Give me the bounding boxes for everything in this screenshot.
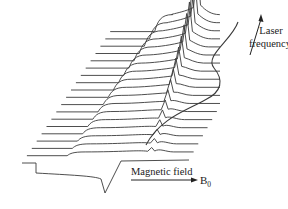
y-axis-label-line2: frequency	[249, 38, 288, 49]
magnetic-field-axis: Magnetic field B0	[131, 166, 211, 189]
spectrum-trace	[105, 0, 220, 39]
spectrum-trace	[110, 0, 220, 32]
spectrum-trace	[32, 139, 198, 149]
laser-frequency-axis: Laser frequency	[249, 14, 288, 55]
spectrum-trace	[47, 110, 213, 127]
arrow-right-icon	[191, 178, 198, 183]
waterfall-figure: Laser frequency Magnetic field B0	[0, 0, 288, 209]
spectral-traces	[22, 0, 220, 193]
spectrum-trace	[76, 47, 220, 83]
spectrum-trace	[37, 129, 203, 141]
spectrum-trace	[56, 90, 220, 112]
envelope-curve	[146, 22, 238, 145]
x-axis-symbol: B0	[200, 174, 211, 189]
y-axis-label-line1: Laser	[259, 25, 283, 36]
arrow-up-icon	[259, 14, 264, 22]
spectrum-trace	[81, 36, 220, 75]
x-axis-label: Magnetic field	[131, 166, 193, 177]
